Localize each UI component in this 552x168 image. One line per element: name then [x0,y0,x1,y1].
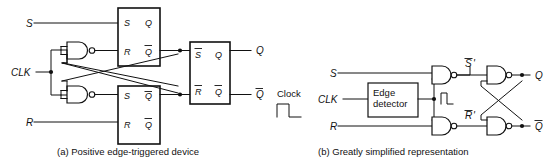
figure-root: S CLK R [0,0,552,168]
caption-panel-a: (a) Positive edge-triggered device [57,146,199,157]
edge-detector-line2: detector [373,98,407,109]
latch-tl-pin-R: R [124,47,131,57]
pulse-glyph-icon [441,93,453,104]
signal-r-prime-tick: ' [473,110,476,121]
panel-b: Clock S CLK R Edge detector [277,58,543,157]
latch-bl-pin-S: S [124,91,130,101]
nand-gate-top [61,42,118,59]
wire-cross-2 [481,81,522,120]
input-R-label: R [26,117,33,128]
latch-tl-pin-Qbar: Q [145,47,152,57]
latch-bl-pin-Qbar: Q [145,120,152,130]
edge-detector-line1: Edge [373,87,395,98]
latch-r-pin-Rbar: R [195,87,202,97]
input-CLK-label: CLK [11,67,32,78]
latch-r-pin-Qbar: Q [215,87,222,97]
latch-bl-pin-Q: Q [145,91,152,101]
clock-legend-label: Clock [277,88,301,99]
output-Q-label: Q [256,45,264,56]
input-R-label-b: R [330,121,337,132]
latch-r-pin-Q: Q [215,50,222,60]
input-CLK-label-b: CLK [318,94,339,105]
latch-right: S Q R Q [190,42,230,104]
signal-s-prime-tick: ' [473,58,476,69]
signal-s-prime-label: S [465,58,472,69]
nand-gate-cross-bottom [487,117,530,135]
nand-gate-bottom [61,86,118,103]
edge-detector-block: Edge detector [368,83,418,117]
clock-waveform-icon [277,104,301,117]
input-S-label: S [26,18,33,29]
circuit-figure: S CLK R [0,0,552,168]
latch-top-left: S Q R Q [118,8,160,66]
latch-tl-pin-S: S [124,18,130,28]
nand-gate-reset [432,117,457,135]
latch-bottom-left: S Q R Q [118,86,160,144]
signal-r-prime-label: R [465,110,472,121]
wire-clk-up-branch [51,50,67,72]
output-Q-label-b: Q [535,70,543,81]
caption-panel-b: (b) Greatly simplified representation [318,146,468,157]
input-S-label-b: S [330,68,337,79]
latch-bl-pin-R: R [124,120,131,130]
nand-gate-cross-top [487,66,530,84]
wire-cross-1 [481,81,522,120]
output-Qbar-label-b: Q [535,121,543,132]
latch-tl-pin-Q: Q [145,18,152,28]
panel-a: S CLK R [11,8,264,157]
output-Qbar-label: Q [256,89,264,100]
wire-clk-down-branch [51,72,67,95]
latch-r-pin-Sbar: S [195,50,201,60]
